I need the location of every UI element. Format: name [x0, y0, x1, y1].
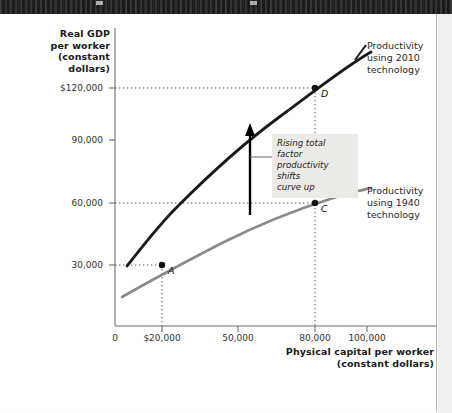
figure-container: Real GDP per worker (constant dollars) P…	[0, 0, 452, 413]
y-tick-label-90000: 90,000	[33, 135, 103, 145]
y-tick-label-120000: $120,000	[33, 83, 103, 93]
curve-label-1940-line2: using 1940	[367, 197, 423, 209]
y-tick-label-60000: 60,000	[33, 198, 103, 208]
annotation-callout-line2: productivity shifts	[277, 160, 353, 182]
x-tick-label-100000: 100,000	[327, 333, 407, 343]
curve-label-2010-line3: technology	[367, 64, 423, 76]
point-label-d: D	[321, 88, 328, 99]
x-axis-title-line1: Physical capital per worker	[262, 346, 434, 358]
annotation-callout: Rising total factor productivity shifts …	[272, 134, 358, 198]
data-point-d	[312, 85, 318, 91]
annotation-callout-line3: curve up	[277, 182, 353, 193]
shift-arrow-head	[245, 123, 255, 136]
y-tick-label-30000: 30,000	[33, 260, 103, 270]
data-point-a	[159, 262, 165, 268]
leader-line-1940	[357, 190, 366, 191]
x-tick-label-20000: $20,000	[122, 333, 202, 343]
x-axis-title: Physical capital per worker (constant do…	[262, 346, 434, 369]
data-point-c	[312, 200, 318, 206]
y-axis-title-line1: Real GDP	[14, 28, 110, 40]
point-label-c: C	[321, 203, 328, 214]
curve-label-2010-line1: Productivity	[367, 40, 423, 52]
curve-label-1940-line3: technology	[367, 209, 423, 221]
point-label-a: A	[168, 265, 175, 276]
y-axis-title-line3: (constant dollars)	[14, 51, 110, 74]
curve-label-1940-line1: Productivity	[367, 185, 423, 197]
annotation-callout-line1: Rising total factor	[277, 138, 353, 160]
curve-label-2010: Productivity using 2010 technology	[367, 40, 423, 76]
x-tick-label-50000: 50,000	[198, 333, 278, 343]
y-axis-title-line2: per worker	[14, 40, 110, 52]
curve-label-1940: Productivity using 1940 technology	[367, 185, 423, 221]
y-axis-title: Real GDP per worker (constant dollars)	[14, 28, 110, 74]
curve-label-2010-line2: using 2010	[367, 52, 423, 64]
curve-productivity-1940	[122, 188, 371, 297]
x-axis-title-line2: (constant dollars)	[262, 358, 434, 370]
